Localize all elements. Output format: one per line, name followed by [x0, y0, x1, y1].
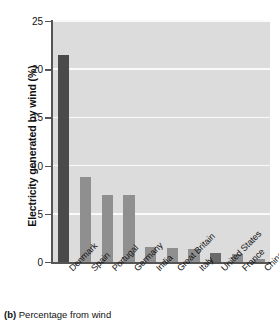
gridline: [53, 165, 270, 167]
bar: [58, 55, 69, 262]
plot-area: [53, 21, 270, 262]
y-axis-tick-label: 25: [1, 16, 43, 27]
figure-caption: (b) Percentage from wind: [4, 309, 111, 320]
gridline: [53, 117, 270, 119]
y-axis-tick-labels: 0510152025: [0, 0, 43, 329]
wind-energy-bar-chart: Electricity generated by wind (%) 051015…: [0, 0, 279, 329]
gridline: [53, 68, 270, 70]
y-axis-tick-mark: [45, 69, 51, 70]
gridline: [53, 20, 270, 22]
y-axis-tick-mark: [45, 117, 51, 118]
y-axis-tick-label: 5: [1, 208, 43, 219]
caption-tag: (b): [4, 309, 16, 320]
y-axis-tick-label: 20: [1, 64, 43, 75]
y-axis-line: [51, 20, 53, 263]
y-axis-tick-label: 0: [1, 257, 43, 268]
y-axis-tick-mark: [45, 214, 51, 215]
y-axis-tick-label: 15: [1, 112, 43, 123]
y-axis-tick-mark: [45, 21, 51, 22]
y-axis-tick-mark: [45, 166, 51, 167]
y-axis-tick-label: 10: [1, 160, 43, 171]
caption-text: Percentage from wind: [19, 309, 111, 320]
plot-inner: [53, 21, 270, 262]
y-axis-tick-mark: [45, 262, 51, 263]
